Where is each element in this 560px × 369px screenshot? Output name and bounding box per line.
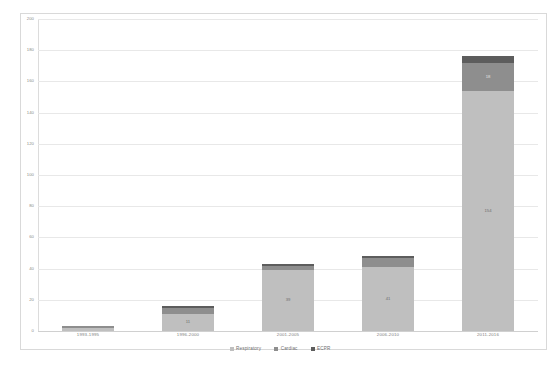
y-axis-tick-label: 40 bbox=[29, 266, 34, 270]
y-axis-tick-label: 60 bbox=[29, 235, 34, 239]
y-axis-tick-label: 20 bbox=[29, 298, 34, 302]
chart-container: 020406080100120140160180200 11394115418 … bbox=[0, 0, 560, 369]
bar-group[interactable]: 15418 bbox=[462, 56, 514, 331]
bar-value-label: 11 bbox=[186, 320, 190, 324]
bar-segment-respiratory[interactable]: 154 bbox=[462, 91, 514, 331]
bar-segment-respiratory[interactable]: 41 bbox=[362, 267, 414, 331]
legend-label: Cardiac bbox=[281, 347, 298, 352]
y-axis-tick-label: 180 bbox=[27, 48, 34, 52]
x-axis-tick-labels: 1993-19951996-20002001-20052006-20102011… bbox=[38, 333, 538, 345]
y-axis-tick-label: 120 bbox=[27, 142, 34, 146]
legend-label: ECPR bbox=[317, 347, 330, 352]
bar-group[interactable] bbox=[62, 326, 114, 331]
bar-group[interactable]: 39 bbox=[262, 264, 314, 331]
legend-swatch-icon bbox=[274, 347, 278, 351]
y-axis-tick-label: 200 bbox=[27, 17, 34, 21]
bar-segment-cardiac[interactable] bbox=[362, 258, 414, 267]
bar-segment-ecpr[interactable] bbox=[462, 56, 514, 62]
x-axis-tick-label: 2006-2010 bbox=[377, 333, 399, 337]
bar-value-label: 154 bbox=[485, 209, 492, 213]
y-axis-tick-label: 160 bbox=[27, 79, 34, 83]
legend-item[interactable]: ECPR bbox=[311, 347, 331, 352]
bar-group[interactable]: 41 bbox=[362, 256, 414, 331]
legend-swatch-icon bbox=[230, 347, 234, 351]
y-axis-tick-label: 100 bbox=[27, 173, 34, 177]
bar-segment-respiratory[interactable]: 39 bbox=[262, 270, 314, 331]
bar-segment-respiratory[interactable] bbox=[62, 328, 114, 331]
y-axis-tick-label: 140 bbox=[27, 110, 34, 114]
x-axis-tick-label: 2011-2016 bbox=[477, 333, 499, 337]
chart-legend: RespiratoryCardiacECPR bbox=[0, 347, 560, 352]
bar-segment-respiratory[interactable]: 11 bbox=[162, 314, 214, 331]
bar-segment-ecpr[interactable] bbox=[162, 306, 214, 308]
y-axis-tick-label: 80 bbox=[29, 204, 34, 208]
legend-item[interactable]: Respiratory bbox=[230, 347, 262, 352]
plot-area: 020406080100120140160180200 11394115418 bbox=[38, 19, 538, 331]
bar-value-label: 41 bbox=[386, 297, 391, 301]
bar-series-layer: 11394115418 bbox=[38, 19, 538, 331]
bar-value-label: 18 bbox=[486, 75, 491, 79]
bar-segment-ecpr[interactable] bbox=[362, 256, 414, 258]
bar-segment-cardiac[interactable] bbox=[62, 326, 114, 328]
x-axis-tick-label: 1993-1995 bbox=[77, 333, 99, 337]
bar-value-label: 39 bbox=[286, 298, 291, 302]
x-axis-tick-label: 1996-2000 bbox=[177, 333, 199, 337]
bar-segment-ecpr[interactable] bbox=[262, 264, 314, 266]
legend-swatch-icon bbox=[311, 347, 315, 351]
x-axis-tick-label: 2001-2005 bbox=[277, 333, 299, 337]
legend-item[interactable]: Cardiac bbox=[274, 347, 297, 352]
bar-segment-cardiac[interactable]: 18 bbox=[462, 63, 514, 91]
bar-segment-cardiac[interactable] bbox=[262, 266, 314, 271]
bar-group[interactable]: 11 bbox=[162, 306, 214, 331]
y-axis-tick-label: 0 bbox=[32, 329, 34, 333]
bar-segment-cardiac[interactable] bbox=[162, 308, 214, 314]
legend-label: Respiratory bbox=[236, 347, 261, 352]
